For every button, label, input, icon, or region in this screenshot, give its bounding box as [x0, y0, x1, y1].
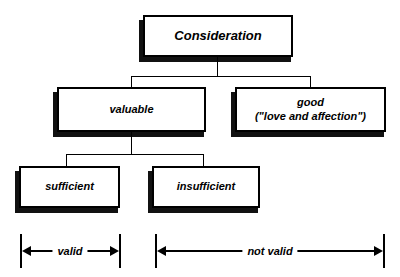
- range-valid-arrowhead-right: [110, 246, 119, 256]
- connector-valuable-stem: [131, 132, 132, 154]
- connector-to-sufficient: [66, 154, 67, 166]
- node-good-label-primary: good: [297, 96, 324, 110]
- connector-root-stem: [217, 57, 218, 76]
- node-consideration-label: Consideration: [174, 28, 261, 44]
- range-valid-arrowhead-left: [22, 246, 31, 256]
- range-not-valid-label: not valid: [242, 245, 297, 257]
- node-good: good ("love and affection"): [235, 87, 386, 132]
- node-insufficient: insufficient: [152, 166, 260, 208]
- connector-to-valuable: [131, 76, 132, 87]
- connector-to-insufficient: [203, 154, 204, 166]
- node-consideration: Consideration: [143, 15, 293, 57]
- connector-level1-bus: [131, 76, 311, 77]
- range-not-valid-tick-right: [383, 234, 385, 268]
- consideration-diagram: Consideration valuable good ("love and a…: [0, 0, 400, 277]
- connector-to-good: [310, 76, 311, 87]
- node-sufficient-label: sufficient: [45, 180, 94, 194]
- range-not-valid-arrowhead-right: [374, 246, 383, 256]
- node-good-label-secondary: ("love and affection"): [255, 110, 366, 124]
- range-valid-label: valid: [52, 245, 87, 257]
- range-valid-tick-right: [119, 234, 121, 268]
- node-valuable-label: valuable: [109, 103, 153, 117]
- node-sufficient: sufficient: [19, 166, 120, 208]
- node-valuable: valuable: [57, 87, 206, 132]
- range-not-valid-arrowhead-left: [157, 246, 166, 256]
- connector-level2-bus: [66, 154, 204, 155]
- node-insufficient-label: insufficient: [177, 180, 235, 194]
